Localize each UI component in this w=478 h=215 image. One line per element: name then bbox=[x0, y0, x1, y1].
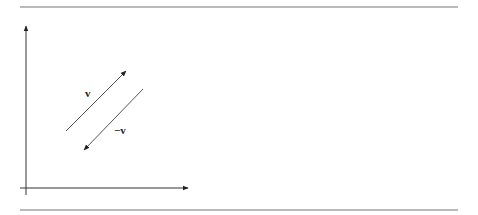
vector-neg-v-label: −v bbox=[114, 124, 126, 136]
vector-v bbox=[66, 71, 126, 131]
vector-neg-v bbox=[84, 89, 143, 150]
vector-diagram: v −v bbox=[0, 0, 478, 215]
vector-v-label: v bbox=[85, 87, 91, 99]
